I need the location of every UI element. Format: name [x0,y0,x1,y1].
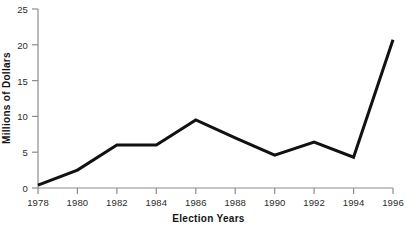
y-tick-label-20: 20 [6,39,28,50]
x-tick-label-1982: 1982 [106,197,128,208]
y-tick-label-25: 25 [6,4,28,15]
x-tick-label-1980: 1980 [67,197,89,208]
x-tick-label-1988: 1988 [224,197,246,208]
x-tick-label-1986: 1986 [185,197,207,208]
chart-container: 25 20 15 10 5 0 1978 1980 1982 1984 1986… [0,0,417,234]
x-axis-title: Election Years [0,213,417,224]
x-tick-label-1992: 1992 [303,197,325,208]
x-tick-label-1990: 1990 [264,197,286,208]
x-axis-ticks [38,188,393,194]
x-tick-label-1996: 1996 [382,197,404,208]
y-axis-title: Millions of Dollars [1,52,12,144]
data-series-line [38,40,393,185]
y-tick-label-0: 0 [6,183,28,194]
x-tick-label-1994: 1994 [343,197,365,208]
y-tick-label-5: 5 [6,147,28,158]
y-axis-ticks [32,9,38,188]
x-tick-label-1984: 1984 [146,197,168,208]
x-tick-label-1978: 1978 [27,197,49,208]
